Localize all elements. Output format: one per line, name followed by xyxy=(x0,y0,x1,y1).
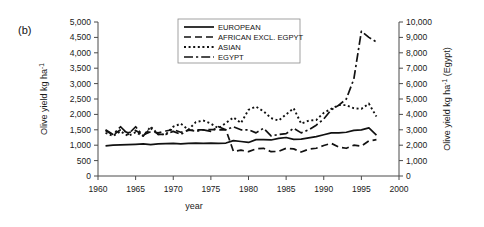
y-axis-right-tick-label: 3,000 xyxy=(406,125,428,135)
legend-label: EUROPEAN xyxy=(218,23,261,32)
y-axis-left-tick-label: 2,000 xyxy=(70,109,92,119)
x-axis-tick-label: 2000 xyxy=(390,184,409,194)
y-axis-left-tick-label: 5,000 xyxy=(70,17,92,27)
x-axis-tick-label: 1980 xyxy=(239,184,258,194)
y-axis-right-tick-label: 8,000 xyxy=(406,48,428,58)
y-axis-right-tick-label: 10,000 xyxy=(406,17,432,27)
y-axis-right-tick-label: 2,000 xyxy=(406,140,428,150)
y-axis-right-tick-label: 7,000 xyxy=(406,63,428,73)
x-axis-tick-label: 1960 xyxy=(89,184,108,194)
series-line-asian xyxy=(106,104,377,136)
legend-label: ASIAN xyxy=(218,43,241,52)
figure-panel-b: (b) 05001,0001,5002,0002,5003,0003,5004,… xyxy=(0,0,484,227)
x-axis-tick-label: 1985 xyxy=(277,184,296,194)
y-axis-right-tick-label: 5,000 xyxy=(406,94,428,104)
legend-label: EGYPT xyxy=(218,53,244,62)
y-axis-left-tick-label: 0 xyxy=(86,171,91,181)
y-axis-left-tick-label: 4,500 xyxy=(70,32,92,42)
y-axis-left-tick-label: 1,000 xyxy=(70,140,92,150)
y-axis-left-tick-label: 2,500 xyxy=(70,94,92,104)
x-axis-tick-label: 1995 xyxy=(352,184,371,194)
y-axis-right-tick-label: 9,000 xyxy=(406,32,428,42)
y-axis-left-tick-label: 4,000 xyxy=(70,48,92,58)
legend-label: AFRICAN EXCL. EGPYT xyxy=(218,33,304,42)
y-axis-right-tick-label: 4,000 xyxy=(406,109,428,119)
olive-yield-chart: 05001,0001,5002,0002,5003,0003,5004,0004… xyxy=(0,0,484,227)
x-axis-tick-label: 1975 xyxy=(201,184,220,194)
y-axis-right-tick-label: 1,000 xyxy=(406,156,428,166)
x-axis-tick-label: 1970 xyxy=(164,184,183,194)
y-axis-right-tick-label: 0 xyxy=(406,171,411,181)
y-axis-left-title: Olive yield kg ha-1 xyxy=(38,63,49,135)
y-axis-left-tick-label: 500 xyxy=(77,156,91,166)
y-axis-left-tick-label: 3,000 xyxy=(70,79,92,89)
y-axis-right-tick-label: 6,000 xyxy=(406,79,428,89)
x-axis-title: year xyxy=(185,201,203,211)
y-axis-left-tick-label: 3,500 xyxy=(70,63,92,73)
y-axis-left-tick-label: 1,500 xyxy=(70,125,92,135)
x-axis-tick-label: 1965 xyxy=(126,184,145,194)
y-axis-right-title: Olive yield kg ha-1 (Egypt) xyxy=(441,47,452,150)
x-axis-tick-label: 1990 xyxy=(314,184,333,194)
